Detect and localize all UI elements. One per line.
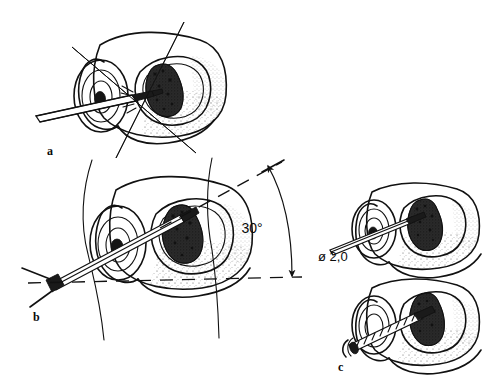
panel-label-a: a <box>47 144 53 158</box>
angle-annotation-label: 30° <box>241 220 262 236</box>
diameter-annotation-label: ø 2,0 <box>318 249 348 264</box>
illustration-canvas: a <box>0 0 504 388</box>
panel-label-b: b <box>33 310 40 324</box>
panel-label-c: c <box>338 360 344 374</box>
figure-root: a <box>0 0 504 388</box>
